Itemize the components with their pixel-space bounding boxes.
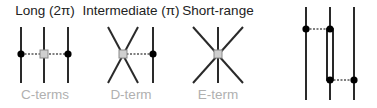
d-term-diagram [108, 27, 157, 83]
c-terms-diagram [17, 27, 71, 83]
diagram-canvas [0, 0, 377, 108]
two-pion-exchange-diagram [302, 7, 357, 100]
e-term-diagram [193, 27, 243, 83]
